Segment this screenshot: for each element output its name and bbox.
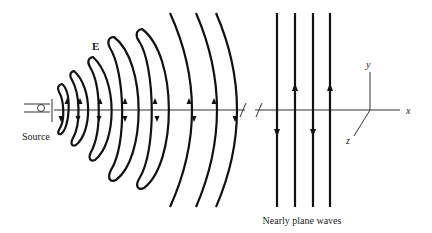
field-label-E: E [92, 40, 99, 52]
propagation-axis [54, 103, 400, 117]
em-wave-diagram: Source [0, 0, 432, 233]
near-field-loops [58, 29, 169, 189]
z-axis [354, 110, 370, 136]
arrow-up-icon [292, 83, 298, 91]
field-loop-4 [108, 37, 138, 181]
field-loop-2 [70, 71, 88, 146]
y-axis-label: y [365, 59, 371, 70]
field-loop-1 [58, 84, 69, 134]
arrow-down-icon [274, 129, 280, 137]
field-loop-5 [137, 29, 169, 189]
z-axis-label: z [345, 135, 350, 146]
source-label: Source [22, 131, 50, 142]
coordinate-axes [354, 72, 370, 136]
arrow-down-icon [310, 129, 316, 137]
field-loop-3 [88, 57, 111, 161]
diagram-svg: Source [0, 0, 432, 233]
arrow-up-icon [327, 83, 333, 91]
source-antenna [24, 99, 52, 122]
x-axis-label: x [405, 105, 411, 116]
caption-plane-waves: Nearly plane waves [263, 215, 342, 226]
